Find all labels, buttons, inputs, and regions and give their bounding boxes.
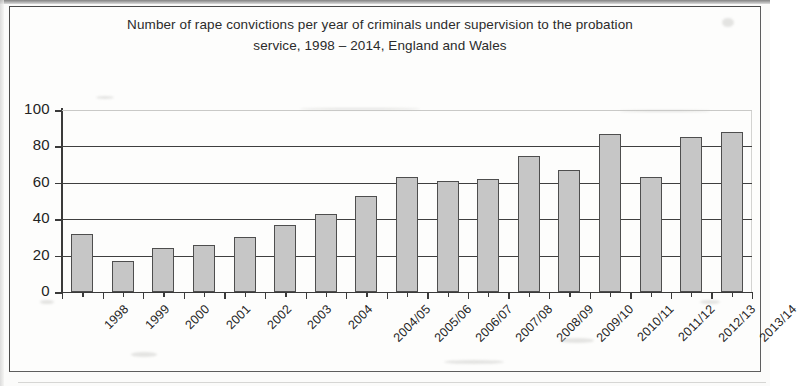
x-axis-label: 2004 [345,302,375,332]
x-tick-mark-center [569,292,570,297]
x-tick-mark [711,292,712,299]
bar [437,181,459,292]
bar [477,179,499,292]
bar [112,261,134,292]
x-tick-mark-center [285,292,286,297]
bar [193,245,215,292]
x-tick-mark [265,292,266,299]
x-tick-mark-center [123,292,124,297]
x-axis-label: 2003 [305,302,335,332]
x-tick-mark-center [529,292,530,297]
gridline-80 [62,146,752,147]
bar [274,225,296,292]
x-axis-label: 2007/08 [513,302,556,345]
x-axis-label: 2002 [264,302,294,332]
x-axis-label: 2006/07 [472,302,515,345]
bar [152,248,174,292]
x-tick-mark-center [82,292,83,297]
x-axis-label: 2009/10 [594,302,637,345]
x-tick-mark [346,292,347,299]
x-axis-label: 1999 [142,302,172,332]
x-tick-mark [103,292,104,299]
x-axis-label: 1998 [102,302,132,332]
bar [234,237,256,292]
x-tick-mark-center [691,292,692,297]
x-tick-mark [549,292,550,299]
bar [71,234,93,292]
x-axis-label: 2010/11 [634,302,676,344]
bar [396,177,418,292]
x-tick-mark [143,292,144,299]
y-tick-label-80: 80 [8,136,50,153]
x-tick-mark-center [407,292,408,297]
x-axis-label: 2004/05 [391,302,434,345]
x-tick-mark-center [448,292,449,297]
x-axis-label: 2008/09 [553,302,596,345]
x-tick-mark [62,292,63,299]
x-tick-mark-center [204,292,205,297]
x-axis-label: 2000 [183,302,213,332]
x-tick-mark [224,292,225,299]
x-tick-mark [306,292,307,299]
x-axis-label: 2012/13 [716,302,759,345]
x-tick-mark-center [732,292,733,297]
x-tick-mark [184,292,185,299]
bar [355,196,377,292]
gridline-100 [62,110,752,111]
y-tick-label-60: 60 [8,173,50,190]
y-tick-label-40: 40 [8,209,50,226]
bar [680,137,702,292]
x-axis-label: 2013/14 [756,302,799,345]
x-axis-label: 2005/06 [432,302,475,345]
x-tick-mark [427,292,428,299]
x-tick-mark [508,292,509,299]
x-tick-mark-center [245,292,246,297]
bar [640,177,662,292]
x-tick-mark-center [366,292,367,297]
x-tick-mark [671,292,672,299]
bar [558,170,580,292]
x-tick-mark [630,292,631,299]
x-axis-label: 2011/12 [675,302,717,344]
x-tick-mark [468,292,469,299]
bar [315,214,337,292]
x-tick-mark-center [163,292,164,297]
bar [721,132,743,292]
x-tick-mark-center [651,292,652,297]
x-tick-mark [752,292,753,299]
x-tick-mark-center [610,292,611,297]
plot-area [62,110,752,292]
y-tick-label-100: 100 [8,100,50,117]
bar [599,134,621,292]
x-axis-label: 2001 [223,302,253,332]
x-tick-mark [590,292,591,299]
bar [518,156,540,293]
x-tick-mark-center [488,292,489,297]
y-tick-label-0: 0 [8,282,50,299]
x-tick-mark [387,292,388,299]
x-tick-mark-center [326,292,327,297]
y-tick-label-20: 20 [8,246,50,263]
